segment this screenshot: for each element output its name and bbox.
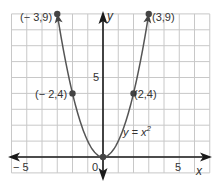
point-label-3-9: (3,9) [152, 11, 175, 23]
point-label-neg2-4: (− 2,4) [35, 88, 67, 100]
data-point [69, 90, 75, 96]
parabola-chart: (− 3,9) (3,9) (− 2,4) (2,4) 5 − 5 0 5 x … [0, 0, 220, 185]
point-label-2-4: (2,4) [134, 88, 157, 100]
data-point [100, 154, 106, 160]
x-tick-5: 5 [175, 161, 181, 173]
point-label-neg3-9: (− 3,9) [20, 11, 52, 23]
x-tick-neg5: − 5 [13, 161, 29, 173]
y-axis-label: y [106, 9, 114, 23]
data-point [54, 11, 60, 17]
equation-exponent: 2 [146, 124, 152, 133]
equation-prefix: y = x [122, 126, 147, 138]
x-tick-0: 0 [92, 161, 98, 173]
x-axis-label: x [195, 164, 203, 178]
equation-label: y = x2 [122, 124, 152, 138]
y-tick-5: 5 [93, 71, 99, 83]
data-point [146, 11, 152, 17]
